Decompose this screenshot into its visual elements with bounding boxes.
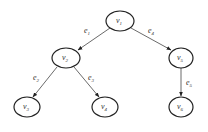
edge-label-e3: e3 bbox=[88, 73, 95, 83]
node-v6: v6 bbox=[169, 97, 193, 117]
edge-label-e5: e5 bbox=[186, 78, 193, 88]
tree-diagram: e1 e4 e2 e3 e5 v1 v2 v5 v3 v4 v6 bbox=[0, 0, 208, 132]
node-v5: v5 bbox=[169, 48, 193, 68]
edge-label-e2: e2 bbox=[33, 73, 40, 83]
node-v2: v2 bbox=[52, 48, 80, 68]
node-v3: v3 bbox=[14, 97, 40, 117]
edge-label-e1: e1 bbox=[84, 26, 90, 36]
node-v4: v4 bbox=[92, 97, 118, 117]
node-v1: v1 bbox=[106, 11, 134, 31]
edge-e3-arrow bbox=[74, 67, 99, 97]
edge-label-e4: e4 bbox=[148, 26, 155, 36]
edge-e1-arrow bbox=[78, 28, 110, 50]
